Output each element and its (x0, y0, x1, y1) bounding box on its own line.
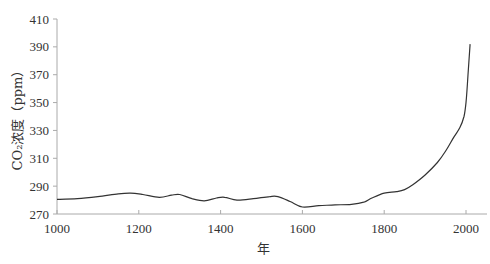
y-tick-label: 350 (30, 95, 50, 110)
x-axis-title: 年 (257, 241, 270, 256)
x-tick-label: 1600 (289, 221, 315, 236)
co2-series-line (57, 44, 470, 207)
y-tick-label: 330 (30, 123, 50, 138)
y-axis: 270290310330350370390410 (30, 12, 58, 222)
y-tick-label: 290 (30, 179, 50, 194)
x-tick-label: 1400 (208, 221, 234, 236)
y-tick-label: 270 (30, 207, 50, 222)
y-tick-label: 310 (30, 151, 50, 166)
y-tick-label: 410 (30, 12, 50, 27)
x-tick-label: 1800 (371, 221, 397, 236)
y-tick-label: 370 (30, 67, 50, 82)
y-tick-label: 390 (30, 39, 50, 54)
y-axis-title: CO₂浓度（ppm） (10, 64, 25, 171)
x-tick-label: 1000 (44, 221, 70, 236)
x-tick-label: 2000 (453, 221, 479, 236)
x-tick-label: 1200 (126, 221, 152, 236)
x-axis: 100012001400160018002000 (44, 210, 487, 236)
co2-line-chart: 270290310330350370390410 100012001400160… (0, 0, 490, 264)
